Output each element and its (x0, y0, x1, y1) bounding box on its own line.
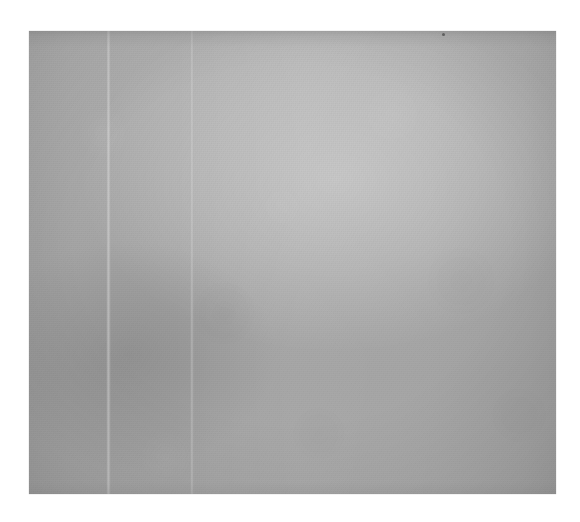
page-vignette (29, 31, 556, 494)
scan-viewport (0, 0, 580, 522)
center-fold-crease (190, 31, 194, 494)
page-tone-lower-left-shading (29, 31, 556, 494)
dust-speck (442, 33, 445, 36)
page-bottom-edge-shadow (29, 31, 556, 494)
page-tone-horizontal-falloff (29, 31, 556, 494)
left-fold-crease (106, 31, 111, 494)
scanned-page (29, 31, 556, 494)
page-top-edge-shadow (29, 31, 556, 494)
page-tone-base (29, 31, 556, 494)
paper-grain-texture (29, 31, 556, 494)
paper-mottle-texture (29, 31, 556, 494)
